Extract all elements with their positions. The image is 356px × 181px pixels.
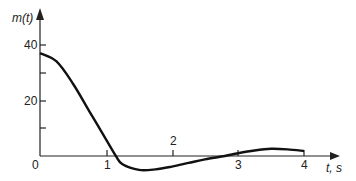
- x-tick-2: 2: [170, 135, 177, 147]
- y-tick-40: 40: [24, 39, 37, 51]
- x-tick-1: 1: [104, 159, 111, 171]
- line-chart: [0, 0, 356, 181]
- y-axis-label: m(t): [12, 12, 33, 24]
- x-tick-3: 3: [235, 159, 242, 171]
- x-tick-4: 4: [301, 159, 308, 171]
- origin-label: 0: [32, 159, 39, 171]
- axes: [36, 8, 340, 160]
- y-tick-20: 20: [24, 95, 37, 107]
- x-axis-label: t, s: [326, 162, 342, 174]
- data-line: [40, 53, 304, 170]
